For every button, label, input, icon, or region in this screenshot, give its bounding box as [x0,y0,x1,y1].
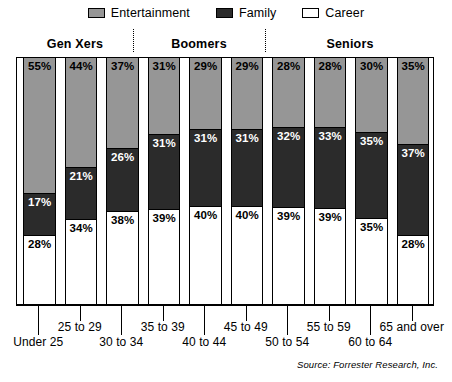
stacked-bar[interactable]: 35%37%28% [397,58,430,304]
bar-segment-value: 31% [194,133,217,145]
stacked-bar[interactable]: 28%32%39% [272,58,305,304]
x-axis-tick [329,305,330,321]
bar-segment-value: 40% [194,210,217,222]
bar-segment-fam[interactable]: 31% [190,129,221,205]
x-axis-label: 50 to 54 [265,336,309,348]
x-axis-tick [163,305,164,321]
bar-container: 55%17%28%44%21%34%37%26%38%31%31%39%29%3… [17,58,433,304]
group-header-band: Gen XersBoomersSeniors [0,0,452,57]
group-label: Gen Xers [47,38,104,51]
bar-segment-fam[interactable]: 21% [66,167,97,219]
bar-segment-car[interactable]: 40% [232,206,263,304]
group-label: Seniors [326,38,373,51]
bar-segment-car[interactable]: 28% [24,235,55,304]
bar-segment-fam[interactable]: 31% [232,129,263,205]
bar-segment-value: 37% [402,148,425,160]
x-axis-label: 25 to 29 [58,321,102,333]
bar-segment-value: 28% [319,61,342,73]
bar-segment-car[interactable]: 34% [66,219,97,303]
bar-segment-value: 31% [153,138,176,150]
plot-area: 55%17%28%44%21%34%37%26%38%31%31%39%29%3… [16,57,434,305]
stacked-bar[interactable]: 31%31%39% [148,58,181,304]
bar-segment-ent[interactable]: 35% [398,58,429,144]
bar-segment-value: 28% [277,61,300,73]
x-axis-tick [80,305,81,321]
bar-segment-value: 34% [70,223,93,235]
bar-segment-value: 35% [360,136,383,148]
bar-segment-fam[interactable]: 37% [398,144,429,235]
bar-segment-fam[interactable]: 32% [273,127,304,206]
bar-segment-value: 17% [28,197,51,209]
bar-segment-value: 29% [236,61,259,73]
stacked-bar[interactable]: 28%33%39% [314,58,347,304]
bar-segment-value: 39% [277,211,300,223]
bar-segment-ent[interactable]: 55% [24,58,55,193]
x-axis: Under 2525 to 2930 to 3435 to 3940 to 44… [16,305,434,306]
bar-segment-value: 31% [153,61,176,73]
bar-segment-ent[interactable]: 30% [356,58,387,132]
bar-segment-value: 37% [111,61,134,73]
x-axis-label: 55 to 59 [307,321,351,333]
bar-segment-car[interactable]: 28% [398,235,429,304]
bar-segment-value: 29% [194,61,217,73]
x-axis-tick [370,305,371,335]
bar-segment-value: 28% [28,239,51,251]
bar-segment-value: 39% [153,213,176,225]
bar-segment-car[interactable]: 39% [149,209,180,304]
x-axis-label: 35 to 39 [141,321,185,333]
bar-segment-value: 39% [319,212,342,224]
stacked-bar[interactable]: 37%26%38% [106,58,139,304]
x-axis-tick [412,305,413,321]
bar-segment-value: 40% [236,210,259,222]
bar-segment-value: 30% [360,61,383,73]
x-axis-tick [38,305,39,335]
group-divider [133,29,134,52]
bar-segment-ent[interactable]: 29% [232,58,263,129]
bar-segment-value: 35% [360,222,383,234]
x-axis-tick [287,305,288,335]
bar-segment-value: 55% [28,61,51,73]
bar-segment-ent[interactable]: 44% [66,58,97,167]
x-axis-tick [204,305,205,335]
bar-segment-car[interactable]: 39% [273,207,304,304]
stacked-bar[interactable]: 30%35%35% [355,58,388,304]
bar-segment-car[interactable]: 40% [190,206,221,304]
bar-segment-ent[interactable]: 28% [315,58,346,127]
bar-segment-ent[interactable]: 37% [107,58,138,148]
stacked-bar[interactable]: 55%17%28% [23,58,56,304]
bar-segment-value: 26% [111,152,134,164]
bar-segment-fam[interactable]: 35% [356,132,387,218]
x-axis-label: 30 to 34 [99,336,143,348]
bar-segment-ent[interactable]: 28% [273,58,304,127]
x-axis-tick [246,305,247,321]
group-label: Boomers [171,38,227,51]
source-note: Source: Forrester Research, Inc. [297,360,438,370]
bar-segment-ent[interactable]: 29% [190,58,221,129]
chart-canvas: EntertainmentFamilyCareer Gen XersBoomer… [0,0,452,382]
bar-segment-fam[interactable]: 17% [24,193,55,235]
stacked-bar[interactable]: 44%21%34% [65,58,98,304]
x-axis-line [16,305,434,306]
bar-segment-value: 33% [319,131,342,143]
x-axis-label: 60 to 64 [348,336,392,348]
x-axis-label: 65 and over [380,321,444,333]
bar-segment-car[interactable]: 39% [315,208,346,304]
x-axis-tick [121,305,122,335]
bar-segment-value: 35% [402,61,425,73]
x-axis-label: Under 25 [13,336,63,348]
bar-segment-car[interactable]: 38% [107,211,138,304]
bar-segment-value: 31% [236,133,259,145]
bar-segment-fam[interactable]: 33% [315,127,346,208]
bar-segment-value: 21% [70,171,93,183]
stacked-bar[interactable]: 29%31%40% [231,58,264,304]
group-divider [265,29,266,52]
bar-segment-value: 38% [111,215,134,227]
bar-segment-fam[interactable]: 31% [149,134,180,210]
bar-segment-value: 28% [402,239,425,251]
bar-segment-ent[interactable]: 31% [149,58,180,134]
bar-segment-car[interactable]: 35% [356,218,387,304]
stacked-bar[interactable]: 29%31%40% [189,58,222,304]
x-axis-label: 45 to 49 [224,321,268,333]
bar-segment-value: 44% [70,61,93,73]
bar-segment-fam[interactable]: 26% [107,148,138,211]
